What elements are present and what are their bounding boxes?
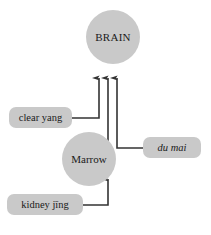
connector-du-mai-to-brain xyxy=(117,78,143,148)
connector-clear-yang-to-brain xyxy=(72,78,99,118)
label-clear-yang[interactable]: clear yang xyxy=(9,107,72,128)
label-kidney-jing-text: kidney jīng xyxy=(21,199,69,210)
label-du-mai-text: du mai xyxy=(158,142,187,153)
diagram-canvas: BRAIN Marrow clear yang du mai kidney jī… xyxy=(0,0,211,235)
label-clear-yang-text: clear yang xyxy=(19,112,62,123)
node-brain[interactable]: BRAIN xyxy=(86,10,140,64)
label-du-mai[interactable]: du mai xyxy=(143,137,201,158)
label-kidney-jing[interactable]: kidney jīng xyxy=(7,194,83,215)
node-marrow[interactable]: Marrow xyxy=(62,132,116,186)
node-brain-label: BRAIN xyxy=(95,31,131,43)
node-marrow-label: Marrow xyxy=(71,153,106,165)
